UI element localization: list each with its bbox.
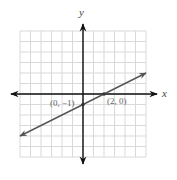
y-axis-label: y	[78, 6, 84, 18]
coordinate-graph: x y (0, −1) (2, 0)	[0, 0, 177, 180]
point-2-0	[102, 92, 106, 96]
point-label-2-0: (2, 0)	[107, 96, 127, 106]
x-axis-label: x	[161, 87, 167, 99]
point-0-neg1	[81, 103, 85, 107]
point-label-0-neg1: (0, −1)	[50, 98, 75, 108]
